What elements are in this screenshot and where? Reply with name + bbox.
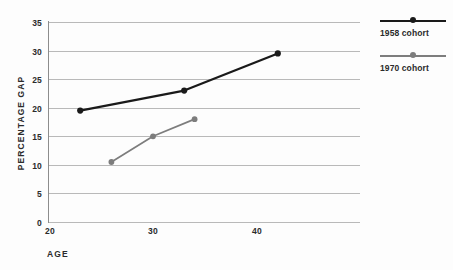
legend-swatch-1958 [380, 16, 446, 25]
legend-label-1970: 1970 cohort [380, 63, 450, 73]
legend-marker-1958 [410, 17, 416, 23]
y-tick-30: 30 [16, 47, 42, 57]
gridline-0 [49, 222, 360, 223]
legend-entry-1970[interactable]: 1970 cohort [380, 51, 450, 73]
x-tick-40: 40 [242, 226, 272, 236]
gridline-30 [49, 51, 360, 52]
gridline-20 [49, 108, 360, 109]
gridline-25 [49, 79, 360, 80]
chart-page: 35 30 25 20 15 10 5 0 20 30 40 PERCENTAG… [0, 0, 453, 270]
y-tick-5: 5 [16, 189, 42, 199]
legend-marker-1970 [410, 52, 416, 58]
y-axis-title: PERCENTAGE GAP [16, 58, 26, 188]
y-tick-35: 35 [16, 18, 42, 28]
x-axis-title: AGE [47, 249, 69, 259]
gridline-15 [49, 136, 360, 137]
gridline-10 [49, 165, 360, 166]
legend-swatch-1970 [380, 51, 446, 60]
legend-label-1958: 1958 cohort [380, 28, 450, 38]
x-tick-30: 30 [138, 226, 168, 236]
legend-entry-1958[interactable]: 1958 cohort [380, 16, 450, 38]
x-tick-20: 20 [35, 226, 65, 236]
plot-area [49, 22, 360, 222]
legend: 1958 cohort 1970 cohort [380, 16, 450, 86]
gridline-5 [49, 193, 360, 194]
gridline-35 [49, 22, 360, 23]
